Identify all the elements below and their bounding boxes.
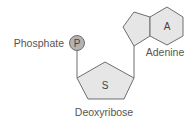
adenine-pentagon (123, 12, 150, 46)
deoxyribose-sugar: S (77, 62, 134, 99)
phosphate-group: P (70, 36, 85, 51)
sugar-label: Deoxyribose (75, 106, 134, 118)
sugar-symbol: S (102, 80, 109, 91)
phosphate-symbol: P (74, 38, 81, 49)
base-label: Adenine (146, 46, 185, 58)
phosphate-label: Phosphate (14, 37, 64, 49)
base-symbol: A (164, 21, 171, 32)
nucleotide-diagram: P Phosphate S Deoxyribose A Adenine (0, 0, 195, 121)
adenine-base: A (123, 7, 183, 46)
